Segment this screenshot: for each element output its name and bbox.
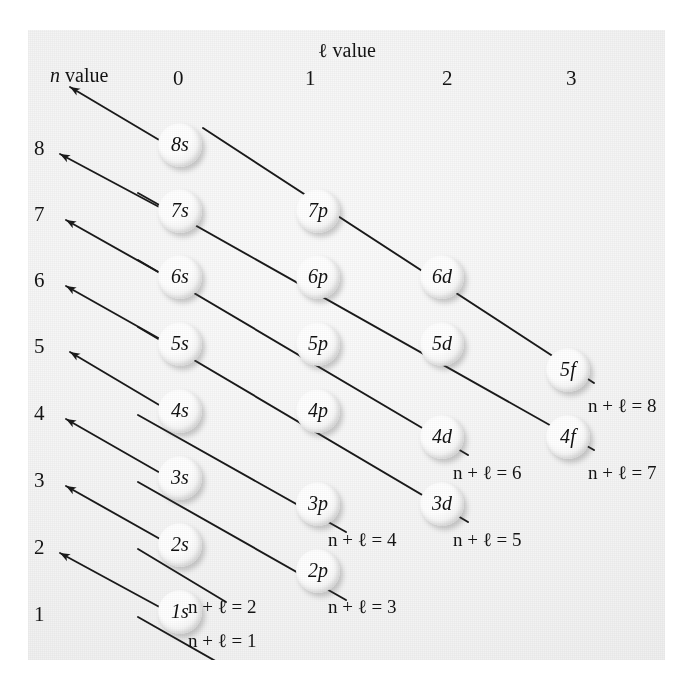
n-axis-word: value [65,64,108,86]
orbital-label: 6d [432,265,452,288]
orbital-label: 7s [171,199,189,222]
orbital-label: 8s [171,133,189,156]
orbital-5d[interactable]: 5d [420,322,464,366]
orbital-label: 7p [308,199,328,222]
orbital-filling-diagram: n value ℓ value 0 1 2 3 8 7 6 5 4 3 2 1 … [28,30,665,660]
orbital-4s[interactable]: 4s [158,389,202,433]
orbital-7s[interactable]: 7s [158,189,202,233]
column-header-1: 1 [305,68,316,89]
orbital-label: 2s [171,533,189,556]
orbital-label: 5d [432,332,452,355]
figure-caption [28,664,665,682]
orbital-8s[interactable]: 8s [158,123,202,167]
orbital-2p[interactable]: 2p [296,549,340,593]
orbital-3d[interactable]: 3d [420,482,464,526]
n-value-6: 6 [34,270,45,291]
diagonal-line-7 [138,193,594,450]
orbital-3s[interactable]: 3s [158,456,202,500]
orbital-6s[interactable]: 6s [158,255,202,299]
n-value-1: 1 [34,604,45,625]
sum-label-8: n + ℓ = 8 [588,396,657,415]
orbital-4p[interactable]: 4p [296,389,340,433]
orbital-label: 4d [432,425,452,448]
orbital-2s[interactable]: 2s [158,523,202,567]
column-header-2: 2 [442,68,453,89]
n-value-2: 2 [34,537,45,558]
column-header-3: 3 [566,68,577,89]
orbital-label: 5s [171,332,189,355]
orbital-4d[interactable]: 4d [420,415,464,459]
orbital-7p[interactable]: 7p [296,189,340,233]
orbital-3p[interactable]: 3p [296,482,340,526]
n-value-7: 7 [34,204,45,225]
orbital-label: 6p [308,265,328,288]
n-value-3: 3 [34,470,45,491]
orbital-5f[interactable]: 5f [546,348,590,392]
orbital-6p[interactable]: 6p [296,255,340,299]
orbital-label: 6s [171,265,189,288]
n-value-5: 5 [34,336,45,357]
sum-label-6: n + ℓ = 6 [453,463,522,482]
n-symbol: n [50,64,60,86]
sum-label-3: n + ℓ = 3 [328,597,397,616]
orbital-4f[interactable]: 4f [546,415,590,459]
n-axis-title: n value [50,65,108,85]
sum-label-4: n + ℓ = 4 [328,530,397,549]
n-value-4: 4 [34,403,45,424]
orbital-label: 5f [560,358,576,381]
sum-label-5: n + ℓ = 5 [453,530,522,549]
orbital-label: 4p [308,399,328,422]
sum-label-1: n + ℓ = 1 [188,631,257,650]
orbital-5p[interactable]: 5p [296,322,340,366]
orbital-label: 5p [308,332,328,355]
n-value-8: 8 [34,138,45,159]
orbital-6d[interactable]: 6d [420,255,464,299]
diagonal-rule-lines-layer [28,30,665,660]
orbital-label: 4f [560,425,576,448]
column-header-0: 0 [173,68,184,89]
orbital-label: 3s [171,466,189,489]
orbital-label: 3p [308,492,328,515]
orbital-label: 2p [308,559,328,582]
sum-label-7: n + ℓ = 7 [588,463,657,482]
l-axis-title: ℓ value [318,40,376,60]
orbital-label: 1s [171,600,189,623]
orbital-label: 4s [171,399,189,422]
diagonal-line-8 [203,128,594,383]
orbital-5s[interactable]: 5s [158,322,202,366]
sum-label-2: n + ℓ = 2 [188,597,257,616]
orbital-label: 3d [432,492,452,515]
